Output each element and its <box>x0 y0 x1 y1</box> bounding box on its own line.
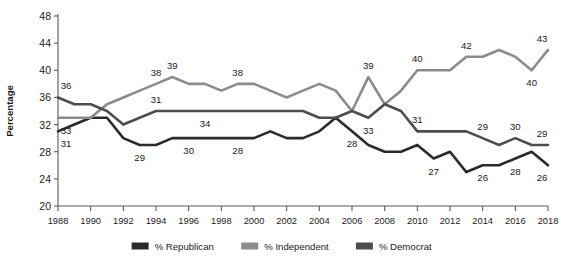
x-axis-tick-label: 1992 <box>113 216 134 226</box>
series-line-republican <box>58 118 548 172</box>
data-label: 31 <box>61 138 72 149</box>
data-label: 31 <box>151 94 162 105</box>
data-label: 26 <box>537 172 548 183</box>
data-label: 33 <box>363 125 374 136</box>
legend-swatch-democrat <box>356 243 373 250</box>
x-axis-tick-label: 2002 <box>276 216 297 226</box>
series-line-independent <box>58 50 548 118</box>
x-axis-tick-label: 1994 <box>146 216 167 226</box>
y-axis-tick-label: 40 <box>39 64 51 76</box>
legend-swatch-republican <box>132 243 149 250</box>
x-axis-tick-label: 2008 <box>374 216 395 226</box>
legend-label-independent: % Independent <box>264 241 329 252</box>
y-axis-tick-label: 32 <box>39 119 51 131</box>
legend-label-democrat: % Democrat <box>379 241 432 252</box>
y-axis-title: Percentage <box>4 85 15 137</box>
x-axis-tick-label: 1988 <box>48 216 69 226</box>
chart-canvas: 2024283236404448198819901992199419961998… <box>0 0 561 263</box>
y-axis-tick-label: 48 <box>39 10 51 22</box>
data-label: 30 <box>510 121 521 132</box>
x-axis-tick-label: 2010 <box>407 216 428 226</box>
x-axis-tick-label: 2012 <box>440 216 461 226</box>
data-label: 36 <box>61 80 72 91</box>
data-label: 30 <box>183 145 194 156</box>
data-label: 40 <box>412 53 423 64</box>
x-axis-tick-label: 2006 <box>342 216 363 226</box>
data-label: 27 <box>428 166 439 177</box>
x-axis-tick-label: 1998 <box>211 216 232 226</box>
y-axis-tick-label: 24 <box>39 173 51 185</box>
data-label: 40 <box>526 77 537 88</box>
legend-label-republican: % Republican <box>155 241 214 252</box>
data-label: 29 <box>537 128 548 139</box>
x-axis-tick-label: 2018 <box>538 216 559 226</box>
data-label: 43 <box>537 33 548 44</box>
data-label: 28 <box>347 138 358 149</box>
x-axis-tick-label: 2000 <box>244 216 265 226</box>
x-axis-tick-label: 2004 <box>309 216 330 226</box>
data-label: 38 <box>232 67 243 78</box>
data-label: 28 <box>232 145 243 156</box>
data-label: 38 <box>151 67 162 78</box>
y-axis-tick-label: 44 <box>39 37 51 49</box>
data-label: 29 <box>134 152 145 163</box>
x-axis-tick-label: 2014 <box>472 216 493 226</box>
line-chart: 2024283236404448198819901992199419961998… <box>0 0 561 263</box>
data-label: 29 <box>477 121 488 132</box>
y-axis-tick-label: 36 <box>39 91 51 103</box>
data-label: 31 <box>412 114 423 125</box>
data-label: 28 <box>510 166 521 177</box>
y-axis-tick-label: 20 <box>39 200 51 212</box>
data-label: 39 <box>167 60 178 71</box>
data-label: 39 <box>363 60 374 71</box>
data-label: 34 <box>200 118 211 129</box>
y-axis-tick-label: 28 <box>39 146 51 158</box>
data-label: 33 <box>61 125 72 136</box>
x-axis-tick-label: 1990 <box>80 216 101 226</box>
x-axis-tick-label: 2016 <box>505 216 526 226</box>
data-label: 42 <box>461 40 472 51</box>
x-axis-tick-label: 1996 <box>178 216 199 226</box>
data-label: 26 <box>477 172 488 183</box>
legend-swatch-independent <box>241 243 258 250</box>
